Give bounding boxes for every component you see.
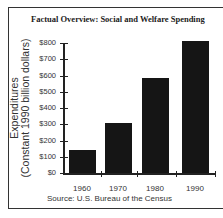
bar-1960 <box>69 150 96 173</box>
y-tick-label: $200 <box>28 136 56 145</box>
x-tick <box>101 171 102 177</box>
y-tick-label: $800 <box>28 38 56 47</box>
y-tick-label: $300 <box>28 119 56 128</box>
x-tick-label: 1990 <box>180 184 210 193</box>
x-axis-line <box>63 173 216 175</box>
x-tick <box>137 171 138 177</box>
bar-1990 <box>182 41 209 173</box>
x-tick-label: 1960 <box>67 184 97 193</box>
x-tick <box>176 171 177 177</box>
y-tick-label: $500 <box>28 87 56 96</box>
chart-title: Factual Overview: Social and Welfare Spe… <box>31 14 205 24</box>
bar-1980 <box>142 78 169 173</box>
y-axis-line <box>63 43 65 174</box>
x-tick <box>215 171 216 177</box>
y-tick-label: $600 <box>28 71 56 80</box>
source-note: Source: U.S. Bureau of the Census <box>47 194 172 203</box>
y-tick-label: $0 <box>28 168 56 177</box>
x-tick-label: 1980 <box>140 184 170 193</box>
y-tick-label: $700 <box>28 54 56 63</box>
y-tick-label: $100 <box>28 152 56 161</box>
x-tick-label: 1970 <box>103 184 133 193</box>
y-tick-label: $400 <box>28 103 56 112</box>
bar-1970 <box>105 123 132 173</box>
